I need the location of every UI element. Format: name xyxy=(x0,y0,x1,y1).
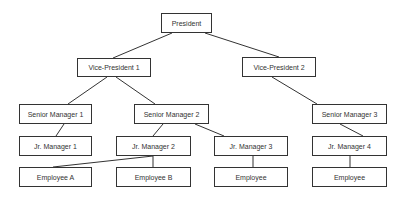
node-employee-jm3: Employee xyxy=(214,167,288,187)
node-employee-b: Employee B xyxy=(116,167,191,187)
edge-sm2-jm3 xyxy=(195,124,224,136)
node-vice-president-1: Vice-President 1 xyxy=(77,58,151,77)
node-jr-manager-4: Jr. Manager 4 xyxy=(312,136,387,156)
edge-president-vp2 xyxy=(205,33,279,57)
edge-president-vp1 xyxy=(113,33,172,58)
node-president: President xyxy=(161,13,212,33)
node-jr-manager-3: Jr. Manager 3 xyxy=(214,136,288,156)
node-employee-a: Employee A xyxy=(19,167,92,187)
node-senior-manager-1: Senior Manager 1 xyxy=(19,104,92,124)
edge-vp2-sm3 xyxy=(272,77,317,104)
edge-jm2-empA xyxy=(53,156,153,167)
edge-sm1-jm1 xyxy=(56,124,64,136)
node-jr-manager-2: Jr. Manager 2 xyxy=(116,136,191,156)
node-senior-manager-3: Senior Manager 3 xyxy=(312,104,387,124)
node-employee-jm4: Employee xyxy=(312,167,387,187)
edge-sm2-jm2 xyxy=(153,124,163,136)
edge-vp1-sm2 xyxy=(116,77,155,104)
edge-vp1-sm1 xyxy=(68,77,107,104)
node-senior-manager-2: Senior Manager 2 xyxy=(134,104,209,124)
edge-sm3-jm4 xyxy=(340,124,363,136)
node-vice-president-2: Vice-President 2 xyxy=(242,57,316,77)
node-jr-manager-1: Jr. Manager 1 xyxy=(19,136,92,156)
